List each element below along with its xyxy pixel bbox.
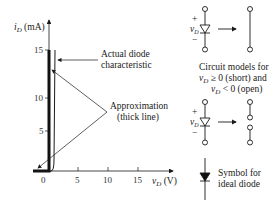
diode-diagram: iD (mA) 15 10 5 0 5 10 15 vD (V) Actual … (0, 0, 273, 208)
forward-vd: vD (190, 24, 199, 35)
x-tick-10: 10 (103, 175, 113, 185)
x-tick-5: 5 (75, 175, 80, 185)
y-ticks: 15 10 5 (34, 45, 49, 136)
y-tick-5: 5 (39, 126, 44, 136)
forward-plus: + (192, 14, 197, 24)
annotation-approximation: Approximation (thick line) (110, 101, 170, 123)
x-ticks: 0 5 10 15 (41, 167, 143, 185)
reverse-plus: + (192, 107, 197, 117)
forward-model (200, 7, 253, 53)
y-axis-label: iD (mA) (14, 22, 45, 34)
x-tick-0: 0 (41, 175, 46, 185)
x-axis-label: vD (V) (152, 176, 177, 188)
approx-pointer-1 (52, 70, 107, 112)
approximation-curve (33, 50, 49, 171)
x-tick-15: 15 (133, 175, 143, 185)
reverse-model (200, 100, 253, 146)
circuit-models-caption: Circuit models for vD ≥ 0 (short) and vD… (199, 62, 271, 96)
actual-diode-curve (33, 50, 55, 171)
reverse-vd: vD (190, 117, 199, 128)
ideal-diode-caption: Symbol for ideal diode (218, 168, 263, 189)
forward-minus: − (192, 35, 197, 45)
annotation-actual: Actual diode characteristic (101, 49, 152, 70)
ideal-diode-symbol (200, 158, 210, 200)
y-tick-10: 10 (34, 93, 44, 103)
y-tick-15: 15 (34, 45, 44, 55)
reverse-minus: − (192, 128, 197, 138)
